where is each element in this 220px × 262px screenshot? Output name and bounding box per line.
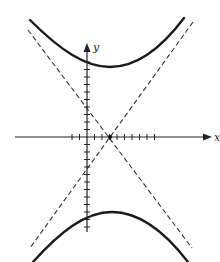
center-point bbox=[108, 135, 112, 139]
y-axis-arrow-icon bbox=[84, 43, 91, 52]
x-axis-arrow-icon bbox=[203, 134, 212, 141]
y-axis-label: y bbox=[92, 41, 100, 54]
asymptote-positive-slope bbox=[30, 22, 193, 248]
hyperbola-diagram: x y bbox=[0, 0, 220, 262]
upper-branch bbox=[30, 18, 184, 67]
x-axis-label: x bbox=[214, 131, 220, 144]
lower-branch bbox=[33, 212, 188, 262]
asymptotes bbox=[28, 22, 193, 248]
y-axis bbox=[84, 50, 90, 232]
